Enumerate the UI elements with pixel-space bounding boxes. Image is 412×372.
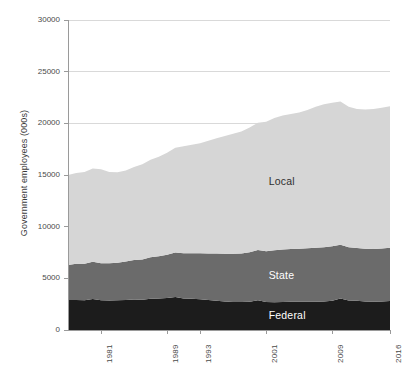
x-tick-label: 2009	[336, 344, 345, 363]
series-label-federal: Federal	[269, 309, 306, 321]
x-tick-label: 1989	[171, 344, 180, 363]
plot-area	[0, 0, 412, 372]
y-tick-label: 10000	[16, 222, 60, 231]
y-tick-label: 30000	[16, 15, 60, 24]
area-band-local	[68, 102, 390, 265]
x-tick-label: 1993	[204, 344, 213, 363]
stacked-area-chart: Government employees (000s) 050001000015…	[0, 0, 412, 372]
series-label-local: Local	[269, 175, 295, 187]
area-series-group	[68, 102, 390, 330]
x-tick-label: 1981	[105, 344, 114, 363]
x-tick-label: 2016	[394, 344, 403, 363]
y-tick-label: 5000	[16, 273, 60, 282]
series-label-state: State	[269, 269, 295, 281]
y-tick-label: 20000	[16, 118, 60, 127]
x-tick-label: 2001	[270, 344, 279, 363]
y-tick-label: 0	[16, 325, 60, 334]
area-band-federal	[68, 297, 390, 330]
y-tick-label: 25000	[16, 67, 60, 76]
y-tick-label: 15000	[16, 170, 60, 179]
